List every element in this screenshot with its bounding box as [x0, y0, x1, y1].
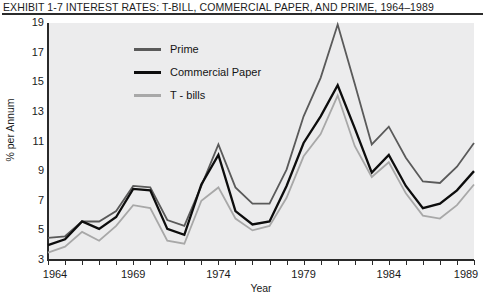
page-title: EXHIBIT 1-7 INTEREST RATES: T-BILL, COMM…	[0, 1, 434, 13]
legend-item-prime: Prime	[134, 41, 334, 64]
legend-swatch-t-bills	[134, 94, 161, 97]
chart-legend: Prime Commercial Paper T - bills	[134, 41, 334, 110]
legend-item-commercial-paper: Commercial Paper	[134, 64, 334, 87]
chart-container: 35791113151719 % per Annum 1964196919741…	[0, 16, 485, 284]
legend-label-t-bills: T - bills	[170, 87, 205, 103]
legend-label-commercial-paper: Commercial Paper	[170, 64, 261, 80]
legend-swatch-commercial-paper	[134, 71, 161, 74]
line-series-t-bills	[48, 96, 474, 253]
exhibit-title-bar: EXHIBIT 1-7 INTEREST RATES: T-BILL, COMM…	[0, 0, 485, 13]
title-divider	[2, 13, 483, 15]
legend-item-t-bills: T - bills	[134, 87, 334, 110]
legend-swatch-prime	[134, 48, 161, 51]
legend-label-prime: Prime	[170, 41, 199, 57]
